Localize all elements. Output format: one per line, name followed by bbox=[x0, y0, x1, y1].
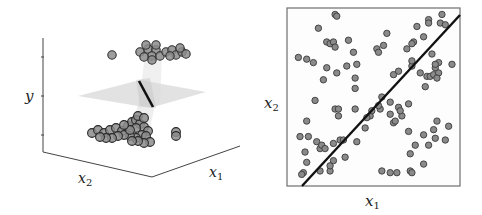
data-point bbox=[140, 114, 149, 123]
data-point bbox=[395, 68, 401, 74]
data-point bbox=[434, 118, 440, 124]
data-point bbox=[414, 23, 420, 29]
data-point bbox=[412, 142, 418, 148]
data-point bbox=[304, 56, 310, 62]
x2-axis-label-3d: x2 bbox=[78, 170, 92, 188]
x2-axis bbox=[43, 152, 152, 177]
data-point bbox=[295, 54, 301, 60]
data-point bbox=[152, 41, 160, 49]
data-point bbox=[422, 83, 428, 89]
data-point bbox=[392, 118, 398, 124]
data-point bbox=[397, 108, 403, 114]
figure: y x2 x1 x2 x1 bbox=[0, 0, 482, 215]
data-point bbox=[405, 128, 411, 134]
data-point bbox=[432, 135, 438, 141]
cluster-lower bbox=[88, 112, 181, 148]
data-point bbox=[302, 149, 308, 155]
data-point bbox=[172, 132, 181, 141]
data-point bbox=[310, 59, 316, 65]
x1-axis-label-3d: x1 bbox=[209, 164, 223, 182]
data-point bbox=[350, 49, 356, 55]
data-point bbox=[330, 140, 336, 146]
data-point bbox=[380, 42, 386, 48]
data-point bbox=[342, 154, 348, 160]
data-point bbox=[375, 49, 381, 55]
x-axis-label: x1 bbox=[365, 192, 380, 211]
y-axis-label: x2 bbox=[264, 94, 279, 113]
data-point bbox=[142, 41, 150, 49]
data-point bbox=[352, 85, 358, 91]
data-point bbox=[176, 44, 184, 52]
data-point bbox=[449, 61, 455, 67]
data-point bbox=[140, 53, 148, 61]
data-point bbox=[404, 46, 410, 52]
data-point bbox=[434, 75, 440, 81]
data-point bbox=[304, 118, 310, 124]
data-point bbox=[312, 97, 318, 103]
data-point bbox=[345, 37, 351, 43]
data-point bbox=[330, 157, 336, 163]
data-point bbox=[166, 52, 174, 60]
data-point bbox=[315, 25, 321, 31]
data-point bbox=[120, 121, 129, 130]
data-point bbox=[409, 169, 415, 175]
data-point bbox=[335, 106, 341, 112]
data-point bbox=[409, 40, 415, 46]
data-point bbox=[332, 44, 338, 50]
data-point bbox=[108, 51, 116, 59]
data-point bbox=[322, 145, 328, 151]
data-point bbox=[384, 30, 390, 36]
data-point bbox=[304, 159, 310, 165]
data-point bbox=[344, 63, 350, 69]
data-point bbox=[320, 77, 326, 83]
data-point bbox=[148, 56, 156, 64]
data-point bbox=[420, 34, 426, 40]
data-point bbox=[445, 123, 451, 129]
data-point bbox=[417, 70, 423, 76]
data-point bbox=[354, 139, 360, 145]
data-point bbox=[394, 169, 400, 175]
data-point bbox=[407, 151, 413, 157]
data-point bbox=[354, 61, 360, 67]
plot-frame bbox=[287, 8, 460, 186]
data-point bbox=[334, 13, 340, 19]
data-point bbox=[324, 65, 330, 71]
data-point bbox=[425, 20, 431, 26]
data-point bbox=[425, 142, 431, 148]
data-point bbox=[298, 171, 304, 177]
data-point bbox=[128, 137, 137, 146]
data-point bbox=[429, 51, 435, 57]
data-point bbox=[432, 61, 438, 67]
data-point bbox=[297, 133, 303, 139]
data-point bbox=[420, 132, 426, 138]
z-axis-label: y bbox=[24, 87, 34, 105]
panel-3d: y x2 x1 bbox=[24, 38, 240, 188]
data-point bbox=[442, 137, 448, 143]
data-point bbox=[96, 133, 105, 142]
data-point bbox=[387, 111, 393, 117]
data-point bbox=[439, 11, 445, 17]
x1-axis bbox=[152, 146, 240, 177]
data-point bbox=[430, 126, 436, 132]
panel-2d: x2 x1 bbox=[264, 8, 460, 211]
data-point bbox=[335, 113, 341, 119]
data-point bbox=[334, 70, 340, 76]
data-point bbox=[362, 125, 368, 131]
data-point bbox=[420, 161, 426, 167]
data-point bbox=[352, 106, 358, 112]
data-point bbox=[379, 168, 385, 174]
data-point bbox=[305, 133, 311, 139]
data-point bbox=[387, 169, 393, 175]
data-point bbox=[387, 99, 393, 105]
data-point bbox=[405, 101, 411, 107]
data-point bbox=[352, 75, 358, 81]
cluster-upper bbox=[108, 41, 190, 64]
